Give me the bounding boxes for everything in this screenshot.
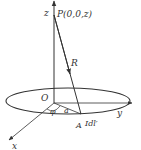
origin-label: O: [41, 93, 49, 103]
z-axis-label: z: [43, 8, 49, 18]
point-p-label: P(0,0,z): [56, 9, 92, 19]
diagram-canvas: z P(0,0,z) R O φ a A Idl′ y x: [0, 0, 141, 150]
current-element-label: Idl′: [84, 119, 98, 128]
point-a-label: A: [75, 121, 82, 130]
r-vector-arrow: [54, 15, 70, 74]
angle-label: φ: [50, 107, 56, 116]
loop-diagram: z P(0,0,z) R O φ a A Idl′ y x: [0, 0, 141, 150]
x-axis-label: x: [12, 141, 17, 150]
radius-label: a: [64, 106, 69, 115]
y-axis-label: y: [116, 108, 123, 118]
r-vector-label: R: [70, 58, 78, 68]
